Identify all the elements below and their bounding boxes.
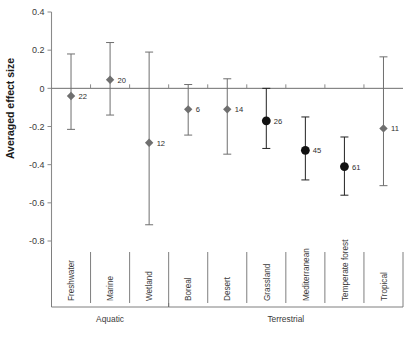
sample-size-label: 12 <box>157 139 165 148</box>
marker-diamond <box>67 92 75 100</box>
y-tick-label: 0.2 <box>32 45 45 55</box>
sample-size-label: 6 <box>196 105 200 114</box>
marker-diamond <box>106 76 114 84</box>
y-tick-label: 0.4 <box>32 7 45 17</box>
data-point-group <box>67 54 75 129</box>
marker-circle <box>340 162 349 171</box>
data-point-group <box>223 79 231 154</box>
y-tick-label: -0.6 <box>29 198 45 208</box>
sample-size-label: 61 <box>352 163 360 172</box>
group-label: Aquatic <box>96 314 124 324</box>
data-point-group <box>145 52 153 225</box>
sample-size-label: 26 <box>274 117 282 126</box>
category-label: Boreal <box>184 277 193 301</box>
category-label: Freshwater <box>67 260 76 301</box>
category-label: Tropical <box>380 272 389 301</box>
marker-diamond <box>379 124 387 132</box>
sample-size-label: 45 <box>313 146 321 155</box>
category-label: Temperate forest <box>341 239 350 301</box>
marker-diamond <box>145 139 153 147</box>
data-point-group <box>301 117 310 180</box>
effect-size-figure: Averaged effect size0.40.20-0.2-0.4-0.6-… <box>0 0 409 338</box>
category-label: Desert <box>223 276 232 301</box>
y-axis-label: Averaged effect size <box>4 58 16 159</box>
data-point-group <box>262 88 271 148</box>
y-tick-label: -0.4 <box>29 160 45 170</box>
category-label: Grassland <box>263 263 272 301</box>
data-point-group <box>379 57 387 186</box>
category-label: Wetland <box>145 271 154 301</box>
marker-circle <box>301 146 310 155</box>
category-label: Mediterranean <box>302 248 311 301</box>
data-point-group <box>106 43 114 116</box>
data-point-group <box>184 85 192 136</box>
marker-diamond <box>223 105 231 113</box>
sample-size-label: 14 <box>235 105 243 114</box>
marker-diamond <box>184 105 192 113</box>
y-tick-label: 0 <box>39 84 44 94</box>
y-tick-label: -0.8 <box>29 236 45 246</box>
sample-size-label: 22 <box>79 92 87 101</box>
group-label: Terrestrial <box>267 314 304 324</box>
sample-size-label: 20 <box>118 76 126 85</box>
data-point-group <box>340 137 349 195</box>
averaged-effect-size-chart: Averaged effect size0.40.20-0.2-0.4-0.6-… <box>0 0 409 338</box>
category-label: Marine <box>106 276 115 301</box>
sample-size-label: 11 <box>391 124 399 133</box>
marker-circle <box>262 116 271 125</box>
y-tick-label: -0.2 <box>29 122 45 132</box>
